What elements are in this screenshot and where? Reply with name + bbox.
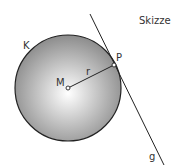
title-label: Skizze: [139, 15, 171, 26]
center-label: M: [56, 77, 65, 88]
point-label: P: [116, 52, 122, 63]
center-point-m: [66, 86, 70, 90]
tangent-point-p: [112, 63, 116, 67]
circle-label: K: [23, 40, 30, 51]
diagram-canvas: Skizze K M r P g: [0, 0, 174, 165]
tangent-label: g: [149, 151, 155, 162]
